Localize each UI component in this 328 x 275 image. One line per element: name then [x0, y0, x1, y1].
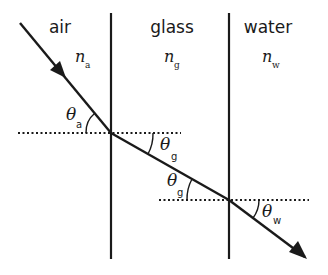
index-symbol-glass-sub: g [174, 60, 180, 70]
angle-arc-w [253, 200, 259, 218]
angle-arc-a [86, 113, 95, 133]
angle-label-g2-sub: g [177, 187, 183, 198]
angle-label-a-sub: a [76, 119, 82, 130]
index-symbol-water: n [262, 47, 272, 66]
index-subscript-air: a [85, 60, 91, 70]
refraction-diagram: air glass water n a n g n w θ a θ g θ g … [0, 0, 328, 275]
medium-label-air: air [49, 17, 71, 37]
index-subscript-water: w [272, 60, 280, 70]
medium-label-glass: glass [150, 17, 194, 37]
angle-arc-g1 [148, 133, 153, 154]
arrowhead-icon [289, 241, 307, 259]
index-symbol-glass: n [164, 47, 174, 66]
angle-label-g2: θ [167, 170, 177, 190]
index-symbol-air: n [75, 47, 85, 66]
angle-label-w-sub: w [273, 215, 281, 226]
angle-label-w: θ [262, 201, 272, 221]
angle-arc-g2 [187, 179, 192, 200]
angle-label-g1-sub: g [171, 151, 177, 162]
angle-label-g1: θ [160, 134, 170, 154]
angle-label-a: θ [66, 104, 76, 124]
medium-label-water: water [244, 17, 292, 37]
